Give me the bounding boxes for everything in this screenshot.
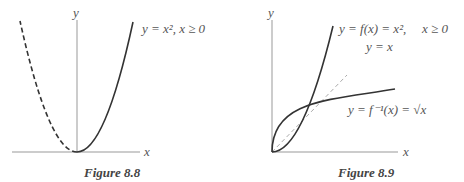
fig88-caption: Figure 8.8 — [84, 166, 140, 179]
fig88-y-axis-label: y — [73, 6, 79, 19]
fig89-f-label: y = f(x) = x², — [339, 22, 406, 35]
fig88-parabola-left — [20, 21, 77, 152]
fig88-curve-label: y = x², x ≥ 0 — [142, 22, 205, 35]
fig89-f-domain-label: x ≥ 0 — [422, 22, 448, 35]
figure-8-8-plot — [12, 20, 140, 152]
fig89-inverse-label: y = f⁻¹(x) = √x — [348, 103, 426, 116]
fig89-identity-line — [272, 75, 347, 152]
fig88-x-axis-label: x — [144, 145, 150, 158]
fig89-f-curve — [272, 26, 333, 152]
fig89-caption: Figure 8.9 — [338, 166, 394, 179]
fig89-identity-label: y = x — [366, 40, 393, 53]
fig89-inverse-curve — [272, 89, 395, 152]
fig89-x-axis-label: x — [403, 145, 409, 158]
fig88-parabola-right — [77, 22, 133, 152]
fig89-y-axis-label: y — [268, 6, 274, 19]
